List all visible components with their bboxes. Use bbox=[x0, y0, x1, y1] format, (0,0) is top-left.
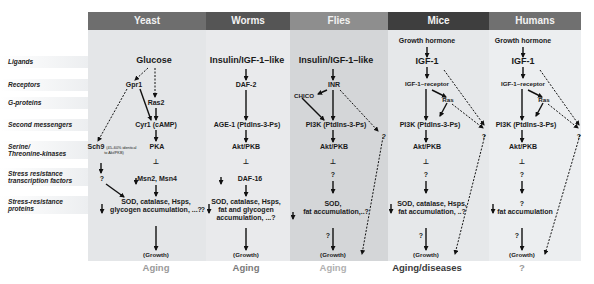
mice-hormone: Growth hormone bbox=[399, 37, 455, 45]
worms-side-q: ? bbox=[201, 206, 205, 214]
mice-receptor: IGF-1–receptor bbox=[405, 81, 449, 88]
yeast-g-protein: Ras2 bbox=[148, 99, 165, 107]
yeast-proteins-2: glycogen accumulation, ...? bbox=[110, 206, 202, 214]
mice-growth: (Growth) bbox=[413, 252, 439, 259]
humans-growth-q: ? bbox=[515, 232, 519, 240]
worms-ligand: Insulin/IGF-1–like bbox=[210, 56, 285, 66]
yeast-receptor: Gpr1 bbox=[126, 81, 142, 89]
flies-dashed-q: ? bbox=[382, 133, 386, 141]
mice-growth-q: ? bbox=[419, 232, 423, 240]
yeast-pka-inhibit: ⊥ bbox=[153, 158, 159, 166]
worms-tf: DAF-16 bbox=[238, 175, 263, 183]
mice-ligand: IGF-1 bbox=[415, 57, 438, 67]
worms-proteins-2: fat and glycogen bbox=[218, 206, 274, 214]
yeast-tf: Msn2, Msn4 bbox=[137, 175, 177, 183]
yeast-growth: (Growth) bbox=[143, 252, 169, 259]
humans-kinase: Akt/PKB bbox=[509, 143, 537, 151]
humans-ligand: IGF-1 bbox=[511, 57, 534, 67]
yeast-outcome: Aging bbox=[143, 262, 170, 273]
humans-inhibit: ⊥ bbox=[519, 158, 525, 166]
humans-proteins-1: fat accumulation bbox=[497, 208, 553, 216]
worms-second-messenger: AGE-1 (PtdIns-3-Ps) bbox=[214, 121, 281, 129]
mice-outcome: Aging/diseases bbox=[392, 262, 462, 273]
worms-proteins-1: SOD, catalase, Hsps, bbox=[211, 198, 281, 206]
humans-receptor: IGF-1–receptor bbox=[501, 81, 545, 88]
yeast-sch9-note: (45–60% identical bbox=[106, 146, 136, 150]
flies-growth: (Growth) bbox=[320, 252, 346, 259]
mice-ras: Ras bbox=[442, 97, 453, 104]
flies-ligand: Insulin/IGF-1–like bbox=[299, 56, 374, 66]
yeast-tf-side: ? bbox=[100, 175, 104, 183]
mice-tf: ? bbox=[424, 171, 428, 179]
flies-proteins-2: fat accumulation,..? bbox=[303, 208, 369, 216]
yeast-second-messenger: Cyr1 (cAMP) bbox=[135, 121, 177, 129]
worms-receptor: DAF-2 bbox=[236, 81, 257, 89]
worms-growth: (Growth) bbox=[233, 252, 259, 259]
yeast-kinase-side: Sch9 (45–60% identical bbox=[88, 143, 137, 151]
humans-ras: Ras bbox=[538, 97, 549, 104]
humans-proteins-0: ? bbox=[520, 200, 524, 208]
mice-kinase: Akt/PKB bbox=[413, 143, 441, 151]
flies-receptor: INR bbox=[328, 81, 340, 89]
yeast-ligand: Glucose bbox=[136, 56, 172, 66]
flies-adaptor: CHICO bbox=[294, 93, 314, 100]
humans-growth: (Growth) bbox=[509, 252, 535, 259]
flies-second-messenger: PI3K (PtdIns-3-Ps) bbox=[306, 121, 367, 129]
yeast-kinase-pka: PKA bbox=[150, 143, 165, 151]
flies-growth-q: ? bbox=[326, 232, 330, 240]
worms-inhibit: ⊥ bbox=[243, 158, 249, 166]
yeast-sch9: Sch9 bbox=[88, 143, 105, 150]
yeast-sch9-note-2: to Akt/PKB) bbox=[104, 151, 123, 155]
flies-inhibit: ⊥ bbox=[330, 158, 336, 166]
mice-proteins-2: fat accumulation, ..? bbox=[398, 208, 466, 216]
humans-dashed-q: ? bbox=[577, 133, 581, 141]
humans-outcome: ? bbox=[519, 262, 525, 273]
mice-inhibit: ⊥ bbox=[423, 158, 429, 166]
flies-proteins-1: SOD, bbox=[324, 200, 341, 208]
flies-outcome: Aging bbox=[320, 262, 347, 273]
humans-tf: ? bbox=[520, 171, 524, 179]
humans-second-messenger: PI3K (PtdIns-3-Ps) bbox=[496, 121, 557, 129]
worms-kinase: Akt/PKB bbox=[232, 143, 260, 151]
humans-hormone: Growth hormone bbox=[495, 37, 551, 45]
flies-kinase: Akt/PKB bbox=[320, 143, 348, 151]
mice-second-messenger: PI3K (PtdIns-3-Ps) bbox=[400, 121, 461, 129]
mice-proteins-1: SOD, catalase, Hsps, bbox=[397, 200, 467, 208]
worms-proteins-3: accumulation, ...? bbox=[216, 214, 275, 222]
flies-tf: ? bbox=[331, 171, 335, 179]
worms-outcome: Aging bbox=[233, 262, 260, 273]
mice-dashed-q: ? bbox=[482, 133, 486, 141]
yeast-proteins-1: SOD, catalase, Hsps, bbox=[121, 198, 191, 206]
